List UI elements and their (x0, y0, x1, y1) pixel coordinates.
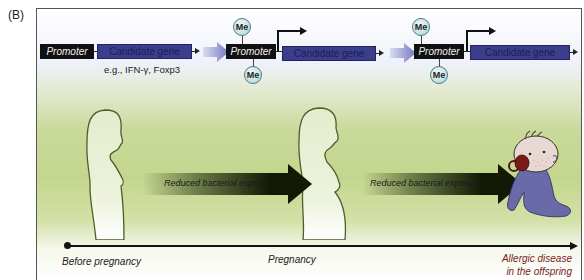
arrow-label: Reduced bacterial exposure (164, 178, 276, 188)
example-genes-text: e.g., IFN-γ, Foxp3 (104, 64, 180, 75)
transcription-arrow-icon (300, 27, 307, 35)
panel-label: (B) (8, 8, 24, 22)
arrow-label: Reduced bacterial exposure (370, 178, 482, 188)
candidate-gene-box: Candidate gene (470, 45, 570, 60)
small-arrowhead-icon (379, 50, 384, 56)
candidate-gene-box: Candidate gene (97, 44, 192, 59)
methyl-group-icon: Me (412, 18, 430, 36)
timeline-arrowhead-icon (570, 242, 578, 250)
arrow-head-icon (288, 164, 312, 204)
methyl-group-icon: Me (233, 18, 251, 36)
promoter-box: Promoter (414, 44, 464, 59)
transcription-arrow-icon (489, 27, 496, 35)
timeline-axis (67, 245, 573, 247)
timeline-label-outcome: Allergic disease in the offspring (470, 252, 572, 278)
transcription-start-line (277, 30, 301, 32)
promoter-box: Promoter (40, 44, 94, 59)
candidate-gene-box: Candidate gene (282, 46, 376, 61)
methyl-stem (242, 35, 243, 44)
chevron-arrow-icon (390, 43, 416, 63)
small-arrowhead-icon (195, 48, 200, 54)
transcription-start-line (466, 30, 468, 52)
promoter-box: Promoter (226, 44, 276, 59)
transcription-start-line (277, 30, 279, 52)
outcome-line-2: in the offspring (470, 265, 572, 278)
methyl-stem (421, 35, 422, 44)
outcome-line-1: Allergic disease (470, 252, 572, 265)
small-arrowhead-icon (573, 49, 578, 55)
baby-with-pacifier-icon (500, 130, 576, 222)
methyl-group-icon: Me (244, 66, 262, 84)
reduced-exposure-arrow-1: Reduced bacterial exposure (142, 164, 312, 204)
timeline-label-before-pregnancy: Before pregnancy (62, 256, 141, 267)
timeline-label-pregnancy: Pregnancy (268, 254, 316, 265)
transcription-start-line (466, 30, 490, 32)
woman-silhouette-icon (78, 108, 138, 240)
methyl-group-icon: Me (430, 66, 448, 84)
